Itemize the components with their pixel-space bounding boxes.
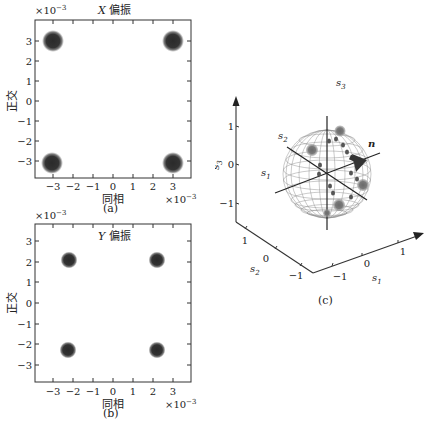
svg-text:1: 1: [26, 277, 32, 288]
panel-a-y-multiplier: ×10−3: [35, 4, 66, 16]
svg-text:3: 3: [26, 236, 32, 247]
svg-text:0: 0: [263, 253, 269, 264]
panel-c-normal-label: n: [368, 138, 375, 149]
panel-a-x-multiplier: ×10−3: [165, 193, 196, 205]
svg-text:3: 3: [170, 181, 176, 192]
panel-b-scatter: ×10−3 Y 偏振 −3−2−1 012 3 321 0−1−2 −3 同相: [0, 210, 215, 430]
svg-text:3: 3: [26, 36, 32, 47]
panel-c-s3-label-top: s3: [336, 77, 346, 91]
panel-c-s2-label-sphere: s2: [278, 130, 288, 144]
panel-a-ylabel: 正交: [5, 90, 19, 112]
panel-b-caption: (b): [103, 407, 119, 420]
panel-a-y-tick-labels: 321 0−1−2 −3: [17, 36, 32, 167]
panel-c-s2-axis-label: s2: [250, 263, 260, 277]
svg-text:−1: −1: [289, 270, 304, 281]
svg-text:2: 2: [150, 386, 156, 397]
svg-text:−3: −3: [17, 360, 32, 371]
svg-text:−1: −1: [86, 386, 101, 397]
panel-c-poincare-sphere: 1 0 −1 s3 1 0 −1 s2 −1 0 1 s1: [215, 60, 433, 320]
svg-text:−2: −2: [66, 386, 81, 397]
panel-c-s1-axis-label: s1: [372, 272, 382, 286]
panel-a-clusters: [41, 30, 184, 174]
panel-b-ylabel: 正交: [5, 292, 19, 314]
panel-c-axes: [233, 96, 425, 273]
panel-b-x-multiplier: ×10−3: [165, 398, 196, 410]
panel-a-title: X 偏振: [97, 3, 131, 17]
svg-text:−1: −1: [17, 319, 32, 330]
svg-text:−1: −1: [219, 198, 234, 209]
panel-b-x-ticks: [53, 224, 173, 382]
panel-b-frame: [35, 224, 191, 382]
svg-text:0: 0: [26, 298, 32, 309]
svg-text:2: 2: [150, 181, 156, 192]
svg-text:−1: −1: [17, 116, 32, 127]
svg-text:−2: −2: [66, 181, 81, 192]
svg-text:1: 1: [26, 76, 32, 87]
svg-text:1: 1: [242, 235, 248, 246]
svg-text:2: 2: [26, 257, 32, 268]
panel-c-s1-label-sphere: s1: [261, 167, 271, 181]
panel-b-y-tick-labels: 321 0−1−2 −3: [17, 236, 32, 371]
panel-c-s3-axis-label: s3: [215, 160, 224, 170]
panel-a-x-ticks: [53, 20, 173, 178]
svg-text:0: 0: [228, 159, 234, 170]
svg-text:0: 0: [26, 96, 32, 107]
svg-text:−3: −3: [46, 386, 61, 397]
panel-c-caption: (c): [318, 294, 333, 307]
svg-text:2: 2: [26, 56, 32, 67]
svg-text:1: 1: [228, 121, 234, 132]
panel-b-clusters: [60, 252, 166, 359]
svg-text:−1: −1: [86, 181, 101, 192]
svg-text:−3: −3: [46, 181, 61, 192]
svg-text:1: 1: [400, 246, 406, 257]
panel-b-y-multiplier: ×10−3: [35, 210, 66, 221]
svg-text:0: 0: [110, 181, 116, 192]
panel-a-scatter: ×10−3 X 偏振 −3−2−1 012 3 321 0−1−2 −3: [0, 0, 215, 210]
svg-text:0: 0: [110, 386, 116, 397]
svg-text:3: 3: [170, 386, 176, 397]
svg-text:1: 1: [130, 181, 136, 192]
svg-text:−1: −1: [333, 271, 348, 282]
panel-b-y-ticks: [35, 241, 191, 365]
panel-a-x-tick-labels: −3−2−1 012 3: [46, 181, 177, 192]
panel-b-title: Y 偏振: [98, 229, 131, 243]
svg-text:−3: −3: [17, 156, 32, 167]
svg-text:0: 0: [364, 258, 370, 269]
svg-text:−2: −2: [17, 339, 32, 350]
panel-b-x-tick-labels: −3−2−1 012 3: [46, 386, 177, 397]
panel-a-y-ticks: [35, 41, 191, 161]
svg-text:1: 1: [130, 386, 136, 397]
svg-text:−2: −2: [17, 136, 32, 147]
panel-c-s1-ticks: −1 0 1: [332, 240, 406, 282]
